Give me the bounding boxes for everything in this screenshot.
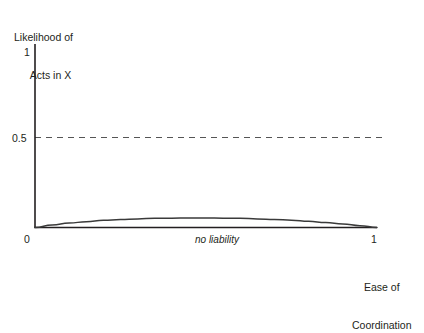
y-axis-title-line2: Acts in X [14,69,73,82]
y-axis-title: Likelihood of Acts in X [14,6,73,106]
region-annotation-no-liability: no liability [195,234,239,245]
x-axis-title-line2: Coordination [352,319,412,332]
y-tick-label-1: 1 [24,46,30,58]
x-axis-title-line1: Ease of [352,281,412,294]
y-tick-label-0.5: 0.5 [12,132,27,144]
y-axis-title-line1: Likelihood of [14,31,73,44]
x-axis-title: Ease of Coordination [352,256,412,333]
x-tick-label-1: 1 [371,233,377,245]
x-tick-label-0: 0 [24,233,30,245]
data-curve-no-liability [35,218,377,228]
